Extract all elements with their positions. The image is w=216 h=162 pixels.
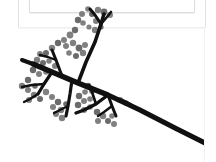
berry-dot: [72, 27, 78, 33]
berry-dot: [79, 11, 85, 17]
berry-dot: [76, 93, 82, 99]
branch-illustration-canvas: [0, 0, 216, 162]
berry-dot: [73, 53, 79, 59]
berry-dot: [82, 89, 88, 95]
berry-dot: [95, 118, 101, 124]
branch-center-limb-down: [66, 80, 72, 116]
berry-dot: [59, 115, 65, 121]
berry-dot: [36, 71, 42, 77]
berry-dot: [50, 104, 56, 110]
berry-dot: [70, 40, 76, 46]
berry-dot: [95, 7, 101, 13]
berry-dot: [55, 99, 61, 105]
berry-dot: [75, 102, 81, 108]
berry-dot: [25, 87, 31, 93]
berry-dot: [67, 32, 74, 39]
berry-dot: [86, 24, 91, 29]
berry-dot: [82, 42, 88, 48]
berry-dot: [105, 118, 111, 124]
vertical-scrollbar-track[interactable]: [204, 28, 216, 162]
berry-dot: [61, 37, 67, 43]
branch-upper-left-limb: [22, 60, 33, 64]
berry-dot: [81, 98, 87, 104]
berry-dot: [55, 40, 61, 46]
berry-dot: [75, 17, 81, 23]
screenshot-viewport: [0, 0, 216, 162]
berry-dot: [43, 89, 49, 95]
berry-dot: [66, 50, 72, 56]
berry-dot: [80, 50, 86, 56]
berry-dot: [37, 96, 43, 102]
berry-dot: [111, 121, 117, 127]
berry-dot: [87, 96, 93, 102]
berry-dot: [25, 77, 31, 83]
berry-dot: [49, 94, 55, 100]
branch-main-stem-tip: [175, 128, 205, 143]
branch-illustration: [0, 0, 216, 162]
berry-dot: [80, 20, 86, 26]
berry-dot: [63, 43, 69, 49]
